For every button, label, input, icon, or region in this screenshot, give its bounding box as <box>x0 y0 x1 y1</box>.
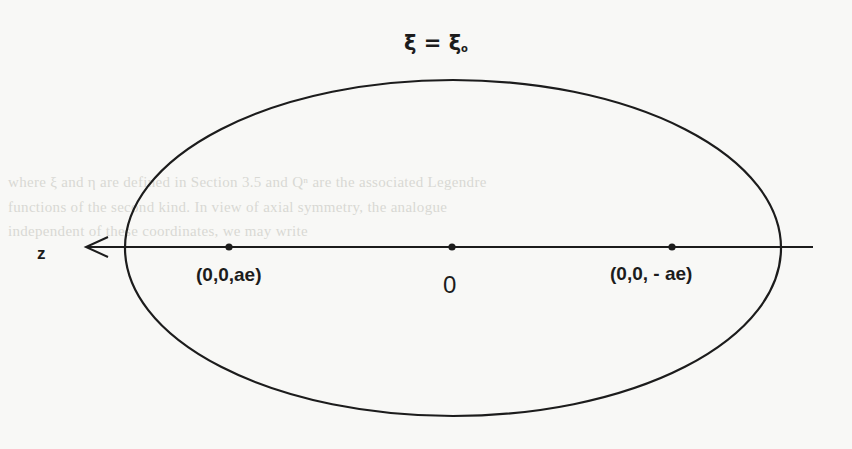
xi-rhs-symbol: ξ <box>449 31 461 55</box>
origin-dot <box>448 243 455 250</box>
scanned-page: where ξ and η are defined in Section 3.5… <box>0 0 852 449</box>
equals-sign: = <box>416 31 448 55</box>
prolate-spheroid-diagram <box>0 0 852 449</box>
focus-positive-dot <box>225 243 232 250</box>
origin-label: 0 <box>443 273 456 297</box>
focus-positive-label: (0,0,ae) <box>196 265 261 284</box>
xi-subscript: o <box>461 43 468 54</box>
xi-symbol: ξ <box>404 31 416 55</box>
z-axis-label: z <box>37 245 46 262</box>
focus-negative-label: (0,0, - ae) <box>610 264 692 283</box>
focus-negative-dot <box>668 243 675 250</box>
boundary-equation-label: ξ = ξo <box>404 33 468 54</box>
